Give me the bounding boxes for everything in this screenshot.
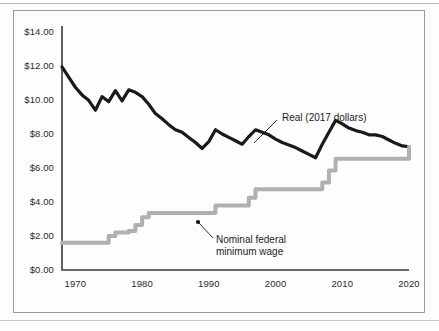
y-axis-tick-label: $4.00 <box>10 196 54 207</box>
real-series-label: Real (2017 dollars) <box>282 112 367 124</box>
nominal-series-label: Nominal federalminimum wage <box>216 234 286 258</box>
x-axis-tick-label: 2010 <box>320 278 364 289</box>
y-axis-tick-label: $10.00 <box>10 94 54 105</box>
y-axis-tick-label: $2.00 <box>10 230 54 241</box>
x-axis-tick-label: 1980 <box>120 278 164 289</box>
nominal-series-label-leader <box>198 222 213 238</box>
real-series-label-line: Real (2017 dollars) <box>282 112 367 124</box>
x-axis-tick-label: 1970 <box>53 278 97 289</box>
x-axis-tick-label: 2000 <box>254 278 298 289</box>
nominal-series-label-marker <box>196 220 200 224</box>
y-axis-tick-label: $6.00 <box>10 162 54 173</box>
y-axis-tick-label: $14.00 <box>10 26 54 37</box>
nominal-series-label-line: Nominal federal <box>216 234 286 246</box>
x-axis-tick-label: 1990 <box>187 278 231 289</box>
y-axis-tick-label: $12.00 <box>10 60 54 71</box>
series-line-nominal <box>62 147 409 243</box>
nominal-series-label-line: minimum wage <box>216 246 286 258</box>
y-axis-tick-label: $0.00 <box>10 264 54 275</box>
y-axis-tick-label: $8.00 <box>10 128 54 139</box>
x-axis-tick-label: 2020 <box>387 278 431 289</box>
chart-figure: $14.00$12.00$10.00$8.00$6.00$4.00$2.00$0… <box>0 0 439 331</box>
